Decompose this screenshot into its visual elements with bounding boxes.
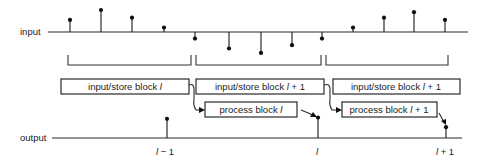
input-sample-dot [99,8,103,12]
store-block-1: input/store block l [61,79,189,94]
output-tick-label-l: l [316,146,319,157]
arrowhead-icon [336,107,342,113]
block-bracket-2 [196,55,321,65]
input-sample-dot [130,16,134,20]
output-sample-dot [316,116,320,120]
input-sample-dot [320,37,324,41]
input-sample-dot [443,18,447,22]
flow-arrow-process2-to-output [439,113,446,125]
input-sample-dot [382,16,386,20]
block-bracket-1 [68,55,191,65]
output-samples [165,116,448,139]
arrowhead-icon [441,119,446,125]
input-sample-dot [162,26,166,30]
input-sample-dot [68,18,72,22]
output-tick-label-l-minus-1: l − 1 [156,146,174,157]
store-block-label: input/store block l [88,81,163,92]
block-processing-diagram: input input/store block l input/store bl… [0,0,483,162]
output-sample-dot [165,117,169,121]
process-block-2: process block l + 1 [342,102,437,117]
output-sample-dot [444,125,448,129]
store-block-2: input/store block l + 1 [196,79,324,94]
output-axis-label: output [20,132,47,143]
input-axis-label: input [20,26,41,37]
block-bracket-3 [326,55,448,65]
output-tick-label-l-plus-1: l + 1 [436,146,454,157]
input-sample-dot [227,46,231,50]
process-block-label: process block l [220,104,284,115]
arrowhead-icon [199,107,205,113]
store-block-label: input/store block l + 1 [215,81,305,92]
input-sample-dot [412,10,416,14]
input-sample-dot [290,43,294,47]
input-sample-dot [351,26,355,30]
input-sample-dot [259,51,263,55]
flow-arrow-process1-to-output [301,110,317,117]
store-block-label: input/store block l + 1 [351,81,441,92]
input-sample-dot [193,37,197,41]
process-block-label: process block l + 1 [350,104,429,115]
store-block-3: input/store block l + 1 [333,79,460,94]
process-block-1: process block l [205,102,297,117]
